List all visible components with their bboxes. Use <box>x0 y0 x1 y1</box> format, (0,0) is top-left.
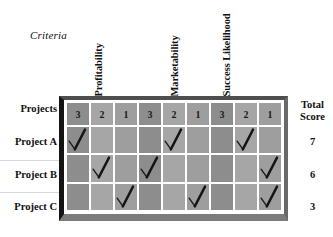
score-header-cell: 3 <box>211 103 233 125</box>
matrix-cell[interactable] <box>67 155 89 181</box>
check-mark-icon <box>68 128 88 152</box>
matrix-cell[interactable] <box>91 127 113 153</box>
score-header-cell: 2 <box>163 103 185 125</box>
matrix-cell[interactable] <box>115 155 137 181</box>
matrix-cell[interactable] <box>139 155 161 181</box>
row-label-project-a: Project A <box>0 136 57 147</box>
matrix-cell[interactable] <box>187 155 209 181</box>
score-header-cell: 3 <box>67 103 89 125</box>
matrix-cell[interactable] <box>115 184 137 210</box>
row-label-project-c: Project C <box>0 201 57 212</box>
criteria-header-success-likelihood: Success Likelihood <box>222 13 233 96</box>
score-header-cell: 2 <box>91 103 113 125</box>
check-mark-icon <box>236 128 256 152</box>
matrix-cell[interactable] <box>163 184 185 210</box>
matrix-cell[interactable] <box>91 155 113 181</box>
criteria-caption: Criteria <box>30 29 67 41</box>
total-score-project-a: 7 <box>292 136 333 147</box>
matrix-cell[interactable] <box>211 155 233 181</box>
total-score-project-c: 3 <box>292 201 333 212</box>
check-mark-icon <box>164 128 184 152</box>
score-header-cell: 2 <box>235 103 257 125</box>
row-divider <box>0 192 60 193</box>
row-label-project-b: Project B <box>0 169 57 180</box>
criteria-header-slot: Marketability <box>180 0 194 96</box>
matrix-cell[interactable] <box>187 127 209 153</box>
score-header-cell: 1 <box>115 103 137 125</box>
total-score-header-line2: Score <box>292 111 333 123</box>
matrix-cell[interactable] <box>67 127 89 153</box>
check-mark-icon <box>92 156 112 180</box>
matrix-cell[interactable] <box>139 127 161 153</box>
row-label-projects-header: Projects <box>0 103 57 114</box>
total-score-header-line1: Total <box>292 99 333 111</box>
matrix-cell[interactable] <box>115 127 137 153</box>
criteria-header-slot: Success Likelihood <box>232 0 246 96</box>
matrix-cell[interactable] <box>235 127 257 153</box>
score-header-cell: 3 <box>139 103 161 125</box>
criteria-header-marketability: Marketability <box>170 35 181 96</box>
criteria-header-profitability: Profitability <box>94 43 105 96</box>
check-mark-icon <box>116 185 136 209</box>
matrix-cell[interactable] <box>211 127 233 153</box>
criteria-header-slot: Profitability <box>104 0 118 96</box>
matrix-cell[interactable] <box>163 155 185 181</box>
matrix-grid: 3 2 1 3 2 1 3 2 1 <box>64 100 284 214</box>
score-header-cell: 1 <box>259 103 281 125</box>
matrix-cell[interactable] <box>163 127 185 153</box>
matrix-cell[interactable] <box>259 184 281 210</box>
total-score-project-b: 6 <box>292 169 333 180</box>
check-mark-icon <box>260 156 280 180</box>
matrix-cell[interactable] <box>67 184 89 210</box>
matrix-table: 3 2 1 3 2 1 3 2 1 <box>59 96 288 221</box>
matrix-cell[interactable] <box>235 184 257 210</box>
decision-matrix-figure: Criteria Profitability Marketability Suc… <box>0 0 333 237</box>
row-divider <box>0 160 60 161</box>
matrix-cell[interactable] <box>211 184 233 210</box>
matrix-cell[interactable] <box>187 184 209 210</box>
check-mark-icon <box>188 185 208 209</box>
total-score-header: Total Score <box>292 99 333 122</box>
matrix-cell[interactable] <box>259 155 281 181</box>
matrix-cell[interactable] <box>235 155 257 181</box>
matrix-cell[interactable] <box>259 127 281 153</box>
matrix-cell[interactable] <box>139 184 161 210</box>
matrix-cell[interactable] <box>91 184 113 210</box>
check-mark-icon <box>140 156 160 180</box>
score-header-cell: 1 <box>187 103 209 125</box>
check-mark-icon <box>260 185 280 209</box>
